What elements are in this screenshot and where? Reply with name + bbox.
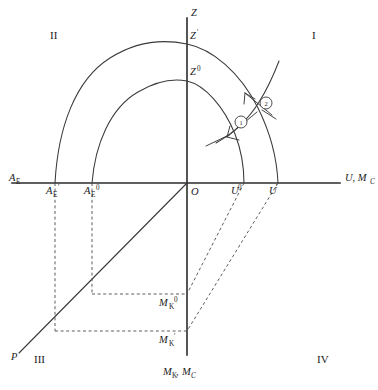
mk-zero-sup: 0 — [174, 296, 178, 304]
mk-zero-sub: K — [169, 303, 175, 311]
axis-label-mk-comma: , — [176, 366, 179, 377]
point-labels-group: Z ' Z 0 A E ' A E 0 O — [10, 29, 278, 362]
quadrant-labels-group: II I III IV — [34, 29, 329, 365]
axis-label-mc-sub: C — [191, 372, 196, 380]
u-zero-sup: 0 — [238, 184, 242, 192]
axis-label-a-e: A E — [8, 172, 21, 186]
marker-label-2: 2 — [264, 100, 267, 107]
axis-label-a-e-main: A — [8, 172, 16, 183]
mk-prime-sup: ' — [174, 333, 175, 341]
ae-prime-sub: E — [53, 191, 58, 199]
z-zero-main: Z — [190, 66, 196, 77]
axis-label-u-mc-sub: C — [370, 178, 375, 186]
origin-label: O — [191, 186, 199, 197]
tangent-stroke-lower-left — [206, 135, 229, 146]
arrowhead-2a — [244, 93, 245, 104]
outer-transformation-curve — [55, 42, 278, 183]
mk-prime-sub: K — [169, 340, 175, 348]
ae-prime-main: A — [45, 185, 53, 196]
point-label-u-zero: U 0 — [231, 184, 242, 196]
point-label-ae-prime: A E ' — [45, 184, 59, 199]
axis-label-z: Z — [191, 7, 197, 18]
z-prime-sup: ' — [197, 29, 198, 37]
inner-transformation-curve — [92, 80, 244, 183]
quadrant-label-iv: IV — [317, 353, 329, 365]
point-label-ae-zero: A E 0 — [83, 184, 100, 199]
axis-label-u-mc-text: U, M — [345, 172, 368, 183]
point-label-p: P — [10, 351, 18, 362]
axis-label-a-e-sub: E — [16, 178, 21, 186]
ae-zero-sub: E — [91, 191, 96, 199]
diagram-canvas: 1 2 Z U, M C A E M K , M C — [0, 0, 378, 390]
mk-zero-main: M — [158, 297, 169, 308]
mk-prime-main: M — [158, 334, 169, 345]
point-label-u-prime: U ' — [269, 184, 278, 196]
quadrant-label-iii: III — [34, 353, 45, 365]
quadrant-label-i: I — [312, 29, 316, 41]
z-prime-main: Z — [190, 30, 196, 41]
z-zero-sup: 0 — [197, 65, 201, 73]
ae-zero-sup: 0 — [96, 184, 100, 192]
point-label-mk-zero: M K 0 — [158, 296, 178, 311]
guide-lines-group — [55, 183, 278, 331]
curves-group — [19, 42, 279, 353]
ae-zero-main: A — [83, 185, 91, 196]
four-quadrant-diagram: 1 2 Z U, M C A E M K , M C — [0, 0, 378, 390]
axis-label-u-mc: U, M C — [345, 172, 375, 186]
marker-label-1: 1 — [239, 119, 242, 126]
point-label-z-prime: Z ' — [190, 29, 198, 41]
quadrant-label-ii: II — [50, 29, 58, 41]
axis-label-mk-mc: M K , M C — [162, 366, 196, 380]
point-label-mk-prime: M K ' — [158, 333, 175, 348]
tangent-stroke-upper-right — [262, 110, 276, 119]
forty-five-degree-ray — [19, 183, 187, 353]
guide-u-zero-diagonal — [187, 183, 244, 294]
axes-group — [12, 18, 340, 355]
ae-prime-sup: ' — [58, 184, 59, 192]
point-label-z-zero: Z 0 — [190, 65, 201, 77]
u-prime-sup: ' — [276, 184, 277, 192]
